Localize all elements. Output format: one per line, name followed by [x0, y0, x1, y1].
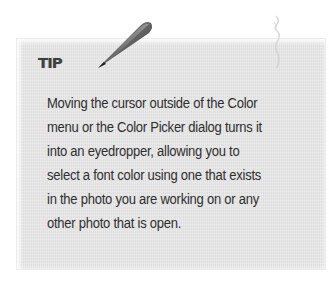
tip-body-line: menu or the Color Picker dialog turns it [47, 115, 291, 139]
tip-body: Moving the cursor outside of the Color m… [47, 91, 291, 235]
tip-heading: TIP [38, 55, 62, 72]
tip-body-line: select a font color using one that exist… [47, 163, 291, 187]
tip-body-line: Moving the cursor outside of the Color [47, 91, 291, 115]
scribble-mark-icon [266, 14, 286, 70]
pen-icon [96, 18, 156, 70]
tip-body-line: other photo that is open. [47, 211, 291, 235]
tip-body-line: into an eyedropper, allowing you to [47, 139, 291, 163]
tip-body-line: in the photo you are working on or any [47, 187, 291, 211]
tip-panel: TIP Moving the cursor outside of the Col… [16, 38, 326, 270]
